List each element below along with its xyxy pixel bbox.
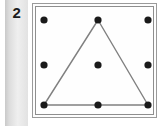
grid-dot-bottom-left[interactable] (40, 101, 47, 108)
item-number-strip: 2 (5, 0, 29, 126)
figure-card: 2 (0, 0, 161, 126)
grid-dot-top-right[interactable] (144, 16, 151, 23)
grid-dot-bottom-center[interactable] (94, 101, 101, 108)
grid-dot-top-center[interactable] (94, 16, 101, 23)
item-number-label: 2 (5, 3, 28, 22)
grid-dot-middle-right[interactable] (144, 61, 151, 68)
grid-dot-middle-left[interactable] (40, 61, 47, 68)
grid-dot-top-left[interactable] (40, 16, 47, 23)
grid-dot-bottom-right[interactable] (144, 101, 151, 108)
figure-panel-inner-border (35, 6, 154, 115)
grid-dot-middle-center[interactable] (94, 61, 101, 68)
